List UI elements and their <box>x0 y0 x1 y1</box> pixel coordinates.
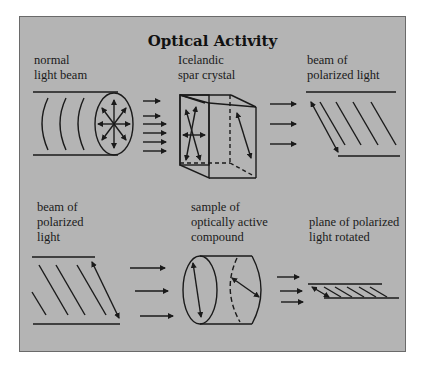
polarized-beam-bottom-icon <box>32 257 120 324</box>
rotated-plane-icon <box>308 284 399 298</box>
arrows-group-3 <box>130 268 173 316</box>
normal-light-beam-icon <box>33 92 133 155</box>
arrows-group-2 <box>270 104 296 144</box>
sample-tube-icon <box>183 256 261 324</box>
arrows-group-4 <box>277 277 303 302</box>
arrows-group-1 <box>143 101 166 151</box>
diagram-drawing <box>0 0 429 371</box>
icelandic-spar-crystal-icon <box>180 95 256 178</box>
polarized-beam-top-icon <box>306 92 400 156</box>
